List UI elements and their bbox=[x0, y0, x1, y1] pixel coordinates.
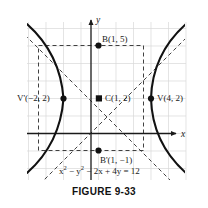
label-b-upper: B(1, 5) bbox=[102, 35, 128, 44]
label-vertex-left: V'(−2, 2) bbox=[17, 94, 50, 103]
b-lower-marker bbox=[95, 147, 101, 153]
figure-container: y x B(1, 5) V'(−2, 2) C(1, 2) V(4, 2) B'… bbox=[0, 0, 208, 208]
equation-label: x2 − y2 − 2x + 4y = 12 bbox=[59, 167, 140, 176]
x-axis-label: x bbox=[181, 129, 185, 139]
hyperbola-plot bbox=[0, 0, 208, 208]
label-b-lower: B'(1, −1) bbox=[100, 156, 132, 165]
b-upper-marker bbox=[95, 42, 101, 48]
label-center: C(1, 2) bbox=[105, 94, 131, 103]
vertex-left-marker bbox=[60, 95, 66, 101]
label-vertex-right: V(4, 2) bbox=[157, 94, 183, 103]
center-marker bbox=[96, 95, 102, 101]
figure-caption: FIGURE 9-33 bbox=[0, 186, 208, 197]
vertex-right-marker bbox=[148, 95, 154, 101]
y-axis-label: y bbox=[96, 15, 100, 25]
